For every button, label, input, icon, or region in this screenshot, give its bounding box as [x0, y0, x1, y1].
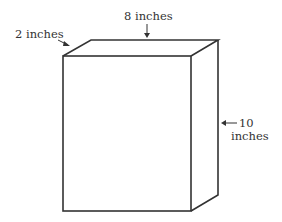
front-face: [63, 56, 191, 211]
width-label: 8 inches: [124, 10, 173, 22]
depth-label: 2 inches: [15, 28, 64, 40]
prism-diagram: 8 inches 2 inches 10 inches: [0, 0, 282, 222]
height-label-unit: inches: [231, 130, 269, 142]
top-face: [63, 40, 218, 56]
height-label-value: 10: [239, 117, 254, 129]
side-face: [191, 40, 218, 211]
